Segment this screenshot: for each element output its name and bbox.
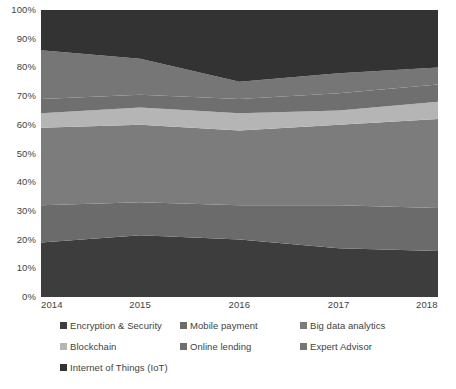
legend-swatch-icon bbox=[60, 364, 67, 371]
chart-legend: Encryption & SecurityMobile paymentBig d… bbox=[60, 320, 456, 380]
legend-label: Online lending bbox=[190, 341, 251, 352]
legend-label: Expert Advisor bbox=[310, 341, 372, 352]
legend-swatch-icon bbox=[60, 343, 67, 350]
plot-area bbox=[41, 10, 438, 297]
legend-label: Blockchain bbox=[70, 341, 116, 352]
y-tick-label: 100% bbox=[11, 5, 36, 15]
legend-label: Internet of Things (IoT) bbox=[70, 362, 168, 373]
legend-item[interactable]: Encryption & Security bbox=[60, 320, 162, 331]
legend-label: Mobile payment bbox=[190, 320, 258, 331]
area-series-group bbox=[41, 10, 438, 297]
stacked-area-chart: 0%10%20%30%40%50%60%70%80%90%100% 201420… bbox=[0, 0, 456, 389]
y-tick-label: 50% bbox=[17, 149, 36, 159]
y-tick-label: 20% bbox=[17, 235, 36, 245]
legend-label: Encryption & Security bbox=[70, 320, 162, 331]
legend-item[interactable]: Blockchain bbox=[60, 341, 116, 352]
legend-label: Big data analytics bbox=[310, 320, 385, 331]
y-tick-label: 80% bbox=[17, 62, 36, 72]
legend-swatch-icon bbox=[180, 343, 187, 350]
y-axis: 0%10%20%30%40%50%60%70%80%90%100% bbox=[0, 0, 41, 307]
area-series bbox=[41, 119, 438, 208]
x-tick-label: 2018 bbox=[416, 299, 438, 310]
y-tick-label: 30% bbox=[17, 206, 36, 216]
legend-item[interactable]: Mobile payment bbox=[180, 320, 258, 331]
y-tick-label: 40% bbox=[17, 177, 36, 187]
y-tick-label: 90% bbox=[17, 34, 36, 44]
x-axis: 20142015201620172018 bbox=[0, 299, 456, 317]
legend-item[interactable]: Online lending bbox=[180, 341, 251, 352]
y-tick-label: 10% bbox=[17, 263, 36, 273]
x-tick-label: 2014 bbox=[41, 299, 63, 310]
legend-swatch-icon bbox=[180, 322, 187, 329]
x-tick-label: 2015 bbox=[129, 299, 151, 310]
legend-swatch-icon bbox=[300, 343, 307, 350]
x-tick-label: 2017 bbox=[328, 299, 350, 310]
legend-swatch-icon bbox=[300, 322, 307, 329]
legend-swatch-icon bbox=[60, 322, 67, 329]
legend-item[interactable]: Expert Advisor bbox=[300, 341, 372, 352]
y-tick-label: 60% bbox=[17, 120, 36, 130]
legend-item[interactable]: Internet of Things (IoT) bbox=[60, 362, 168, 373]
y-tick-label: 70% bbox=[17, 91, 36, 101]
x-tick-label: 2016 bbox=[229, 299, 251, 310]
legend-item[interactable]: Big data analytics bbox=[300, 320, 385, 331]
